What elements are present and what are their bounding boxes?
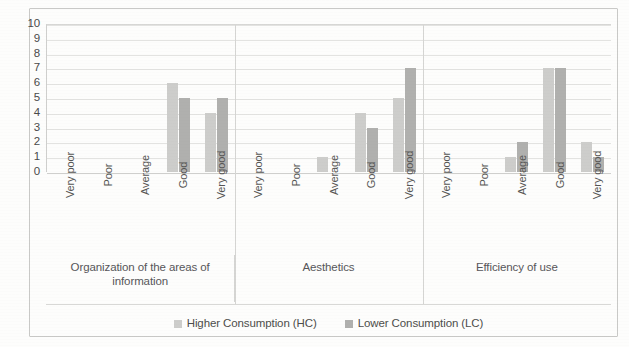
- tick-label-slot: Good: [159, 173, 197, 255]
- bar-group: [423, 25, 611, 172]
- x-axis-tick-label: Very good: [404, 151, 415, 200]
- x-axis-tick-labels: Very poorPoorAverageGoodVery goodVery po…: [46, 173, 611, 255]
- bar-slot: [348, 25, 386, 172]
- x-axis-tick-label: Average: [517, 155, 528, 195]
- tick-label-slot: Good: [347, 173, 385, 255]
- y-axis-tick-label: 7: [34, 63, 40, 75]
- bar-chart-figure: 109876543210 Very poorPoorAverageGoodVer…: [0, 0, 629, 347]
- tick-label-slot: Very poor: [423, 173, 461, 255]
- x-axis-tick-label: Average: [329, 155, 340, 195]
- tick-label-slot: Good: [536, 173, 574, 255]
- bar-slot: [160, 25, 198, 172]
- y-axis-tick-label: 3: [34, 122, 40, 134]
- tick-label-slot: Very poor: [234, 173, 272, 255]
- y-axis-tick-label: 8: [34, 48, 40, 60]
- y-axis-tick-label: 1: [34, 151, 40, 163]
- group-caption-cell: Efficiency of use: [423, 258, 611, 304]
- legend-entry: Higher Consumption (HC): [174, 318, 317, 330]
- tick-label-slot: Very good: [573, 173, 611, 255]
- y-axis-tick-label: 9: [34, 33, 40, 45]
- tick-label-slot: Very good: [197, 173, 235, 255]
- group-caption-label: Aesthetics: [302, 260, 354, 274]
- bar-group: [47, 25, 235, 172]
- y-axis-tick-label: 6: [34, 77, 40, 89]
- bar-group: [235, 25, 423, 172]
- tick-label-slot: Average: [121, 173, 159, 255]
- bar: [317, 157, 328, 172]
- x-axis-tick-label: Very good: [216, 151, 227, 200]
- legend-label: Lower Consumption (LC): [358, 318, 484, 330]
- group-caption-cell: Aesthetics: [234, 258, 422, 304]
- tick-label-slot: Average: [310, 173, 348, 255]
- bar-slot: [536, 25, 574, 172]
- x-axis-tick-label: Poor: [103, 164, 114, 187]
- x-axis-tick-label: Very good: [592, 151, 603, 200]
- bar-slot: [498, 25, 536, 172]
- legend-swatch-icon: [345, 320, 353, 328]
- chart-legend: Higher Consumption (HC)Lower Consumption…: [46, 314, 611, 334]
- x-axis-tick-label: Average: [140, 155, 151, 195]
- tick-label-group: Very poorPoorAverageGoodVery good: [234, 173, 422, 255]
- bar-slot: [235, 25, 273, 172]
- tick-label-group: Very poorPoorAverageGoodVery good: [46, 173, 234, 255]
- bar: [543, 68, 554, 172]
- tick-label-slot: Poor: [272, 173, 310, 255]
- tick-label-slot: Poor: [460, 173, 498, 255]
- y-axis-tick-label: 10: [28, 18, 40, 30]
- legend-swatch-icon: [174, 320, 182, 328]
- group-caption-label: Efficiency of use: [476, 260, 558, 274]
- tick-label-slot: Poor: [84, 173, 122, 255]
- bar-slot: [47, 25, 85, 172]
- x-axis-tick-label: Poor: [291, 164, 302, 187]
- legend-label: Higher Consumption (HC): [187, 318, 317, 330]
- x-axis-tick-label: Very poor: [441, 152, 452, 198]
- x-axis-tick-label: Poor: [479, 164, 490, 187]
- y-axis: 109876543210: [14, 24, 40, 172]
- group-caption-cell: Organization of the areas of information: [46, 258, 234, 304]
- caption-divider: [46, 304, 611, 305]
- tick-label-slot: Very good: [385, 173, 423, 255]
- tick-label-slot: Average: [498, 173, 536, 255]
- x-axis-tick-label: Good: [366, 162, 377, 189]
- tick-label-slot: Very poor: [46, 173, 84, 255]
- y-axis-tick-label: 5: [34, 92, 40, 104]
- x-axis-tick-label: Very poor: [65, 152, 76, 198]
- bar: [167, 83, 178, 172]
- bar: [555, 68, 566, 172]
- bars-layer: [47, 25, 611, 172]
- bar-slot: [423, 25, 461, 172]
- bar-slot: [461, 25, 499, 172]
- x-axis-tick-label: Very poor: [253, 152, 264, 198]
- group-caption-label: Organization of the areas of information: [56, 260, 224, 289]
- bar-slot: [273, 25, 311, 172]
- x-axis-tick-label: Good: [555, 162, 566, 189]
- bar-slot: [310, 25, 348, 172]
- tick-label-group: Very poorPoorAverageGoodVery good: [423, 173, 611, 255]
- y-axis-tick-label: 4: [34, 107, 40, 119]
- plot-area: [46, 24, 611, 172]
- x-axis-tick-label: Good: [178, 162, 189, 189]
- y-axis-tick-label: 2: [34, 137, 40, 149]
- legend-entry: Lower Consumption (LC): [345, 318, 484, 330]
- bar-slot: [85, 25, 123, 172]
- x-axis-group-captions: Organization of the areas of information…: [46, 258, 611, 304]
- y-axis-tick-label: 0: [34, 166, 40, 178]
- bar-slot: [122, 25, 160, 172]
- bar: [505, 157, 516, 172]
